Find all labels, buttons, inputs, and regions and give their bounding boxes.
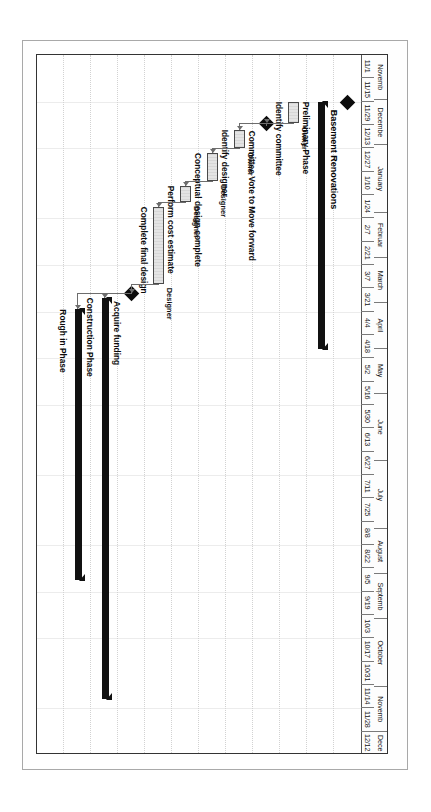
timescale-week-cell: 7/11 — [361, 475, 374, 498]
summary-bar[interactable] — [75, 309, 82, 580]
dependency-link-arrow — [156, 203, 162, 207]
timescale-week-row: 11/111/1511/2912/1312/271/101/242/72/213… — [361, 55, 374, 754]
timescale-month-cell: Novemb — [374, 55, 387, 100]
dependency-link-arrow — [237, 126, 243, 130]
summary-bar-start-cap — [106, 297, 112, 304]
dependency-link-vertical — [267, 123, 294, 124]
summary-bar-start-cap — [79, 308, 85, 315]
task-bar[interactable] — [180, 186, 191, 202]
timescale-week-cell: 6/27 — [361, 452, 374, 475]
timescale-month-cell: April — [374, 303, 387, 348]
timescale-week-cell: 7/25 — [361, 498, 374, 521]
timescale-week-cell: 6/13 — [361, 428, 374, 451]
dependency-link-vertical — [213, 148, 240, 149]
dependency-link-vertical — [240, 123, 267, 124]
gantt-task-row[interactable]: Rough in Phase — [64, 55, 91, 754]
task-name-label: Rough in Phase — [58, 309, 68, 372]
summary-bar-start-cap — [322, 101, 328, 108]
task-bar[interactable] — [288, 102, 299, 123]
timescale-week-cell: 11/14 — [361, 685, 374, 708]
timescale-week-cell: 5/2 — [361, 358, 374, 381]
dependency-link-arrow — [183, 182, 189, 186]
summary-bar[interactable] — [318, 102, 325, 349]
timescale-header: NovembDecembeJanuaryFebruarMarchAprilMay… — [361, 55, 387, 754]
resource-label: Designer — [219, 185, 228, 217]
timescale-week-cell: 1/24 — [361, 195, 374, 218]
gantt-task-row[interactable]: Preliminary Phase — [307, 55, 334, 754]
timescale-month-cell: Septemb — [374, 574, 387, 619]
timescale-week-cell: 11/29 — [361, 102, 374, 125]
gantt-task-row[interactable]: Basement Renovations — [334, 55, 361, 754]
timescale-week-cell: 10/31 — [361, 662, 374, 685]
timescale-week-cell: 9/19 — [361, 592, 374, 615]
timescale-month-cell: Februar — [374, 213, 387, 258]
summary-bar-end-cap — [79, 574, 85, 581]
dependency-link-vertical — [186, 181, 213, 182]
summary-bar[interactable] — [102, 298, 109, 699]
timescale-week-cell: 10/3 — [361, 615, 374, 638]
gantt-task-row[interactable]: Committee Vote to Move forward — [253, 55, 280, 754]
timescale-week-cell: 2/7 — [361, 218, 374, 241]
dependency-link-vertical — [132, 284, 159, 285]
gantt-task-row[interactable]: DesignerConceptual design complete — [199, 55, 226, 754]
summary-bar-end-cap — [322, 343, 328, 350]
gantt-task-row[interactable]: OwnerIdentify designer — [226, 55, 253, 754]
dependency-link-vertical — [78, 293, 132, 294]
timescale-week-cell: 11/28 — [361, 708, 374, 731]
gantt-task-row[interactable]: DesignerComplete final design — [145, 55, 172, 754]
task-bar[interactable] — [234, 130, 245, 149]
timescale-week-cell: 9/5 — [361, 568, 374, 591]
timescale-week-cell: 12/12 — [361, 732, 374, 754]
resource-label: Owner — [300, 127, 309, 150]
timescale-week-cell: 5/30 — [361, 405, 374, 428]
timescale-week-cell: 8/8 — [361, 522, 374, 545]
timescale-month-cell: July — [374, 461, 387, 529]
resource-label: Designer — [165, 288, 174, 320]
timescale-month-cell: August — [374, 529, 387, 574]
milestone-marker[interactable] — [340, 94, 356, 110]
gantt-task-row[interactable]: Construction Phase — [91, 55, 118, 754]
timescale-week-cell: 11/1 — [361, 55, 374, 78]
printed-page: NovembDecembeJanuaryFebruarMarchAprilMay… — [0, 0, 431, 812]
dependency-link-arrow — [75, 305, 81, 309]
timescale-month-cell: Decembe — [374, 100, 387, 145]
timescale-month-cell: June — [374, 394, 387, 462]
timescale-week-cell: 2/21 — [361, 242, 374, 265]
gantt-rotation-wrapper: NovembDecembeJanuaryFebruarMarchAprilMay… — [36, 54, 388, 754]
gantt-chart: NovembDecembeJanuaryFebruarMarchAprilMay… — [36, 54, 388, 754]
timescale-week-cell: 3/21 — [361, 288, 374, 311]
gantt-grid-body: Basement RenovationsPreliminary PhaseOwn… — [37, 55, 361, 754]
dependency-link-arrow — [210, 149, 216, 153]
timescale-month-cell: Novemb — [374, 687, 387, 732]
dependency-link-vertical — [159, 202, 186, 203]
resource-label: Designer — [192, 206, 201, 238]
gantt-task-row[interactable]: OwnerIdentify committee — [280, 55, 307, 754]
timescale-week-cell: 4/4 — [361, 312, 374, 335]
timescale-week-cell: 11/15 — [361, 78, 374, 101]
timescale-week-cell: 12/27 — [361, 148, 374, 171]
timescale-month-cell: January — [374, 145, 387, 213]
timescale-week-cell: 4/18 — [361, 335, 374, 358]
timescale-month-cell: October — [374, 619, 387, 687]
timescale-week-cell: 3/7 — [361, 265, 374, 288]
summary-bar-end-cap — [106, 693, 112, 700]
task-bar[interactable] — [207, 153, 218, 181]
timescale-month-row: NovembDecembeJanuaryFebruarMarchAprilMay… — [374, 55, 387, 754]
resource-label: Owner — [246, 152, 255, 175]
timescale-week-cell: 1/10 — [361, 172, 374, 195]
timescale-week-cell: 12/13 — [361, 125, 374, 148]
gantt-task-row[interactable]: Acquire funding — [118, 55, 145, 754]
timescale-week-cell: 5/16 — [361, 382, 374, 405]
timescale-month-cell: March — [374, 258, 387, 303]
task-bar[interactable] — [153, 207, 164, 284]
timescale-week-cell: 10/17 — [361, 638, 374, 661]
dependency-link-arrow — [102, 294, 108, 298]
timescale-week-cell: 8/22 — [361, 545, 374, 568]
timescale-month-cell: May — [374, 349, 387, 394]
gantt-task-row[interactable]: DesignerPerform cost estimate — [172, 55, 199, 754]
timescale-month-cell: Dece — [374, 732, 387, 754]
